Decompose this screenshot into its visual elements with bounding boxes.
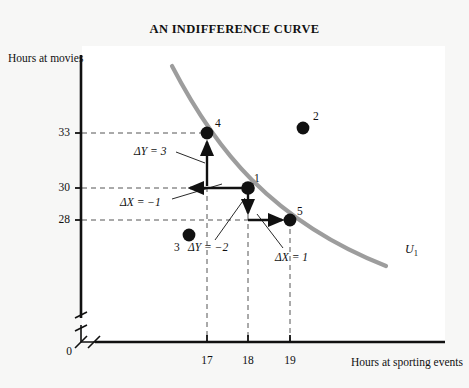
data-point-3 <box>183 229 196 242</box>
movement-arrows <box>190 142 282 220</box>
data-point-1 <box>241 181 255 195</box>
horizontal-guides <box>82 133 290 220</box>
data-point-5 <box>284 214 297 227</box>
data-point-4 <box>201 127 214 140</box>
chart-canvas <box>0 0 469 388</box>
vertical-guides <box>207 133 290 342</box>
data-points <box>183 122 310 242</box>
data-point-2 <box>297 122 310 135</box>
indifference-curve-u1 <box>172 66 386 266</box>
indifference-curve-figure: AN INDIFFERENCE CURVE Hours at movies Ho… <box>0 0 469 388</box>
